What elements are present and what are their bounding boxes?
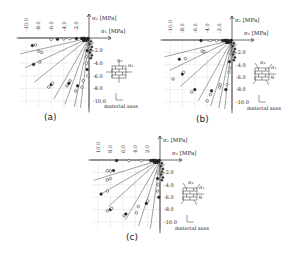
y-tick-label: -6.0	[93, 73, 103, 79]
y-tick-label: -4.0	[164, 182, 174, 188]
x-tick-label: 6.0	[120, 145, 126, 153]
sigma2-icon-label: σ₂	[260, 59, 265, 65]
x-tick-label: 2.0	[144, 145, 150, 153]
x-tick-label: -4.0	[204, 23, 210, 33]
sigma2-icon-label: σ₂	[188, 179, 193, 185]
y-axis-label: σ₂ [MPa]	[92, 15, 116, 21]
panel-b: σ₂ [MPa]σ₁ [MPa]-10.0-8.0-6.0-4.0-2.0-2.…	[161, 16, 282, 124]
y-tick-label: -2.0	[93, 47, 103, 53]
grid	[20, 38, 89, 107]
data-points	[31, 37, 93, 92]
grid	[164, 40, 232, 108]
y-tick-label: -8.0	[236, 86, 246, 92]
x-tick-label: 8.0	[107, 145, 113, 153]
figure-canvas: σ₂ [MPa]σ₁ [MPa]-10.0-8.0-6.0-4.0-2.0-2.…	[0, 0, 307, 259]
y-tick-label: -8.0	[164, 206, 174, 212]
material-axes-icon	[187, 215, 194, 222]
y-tick-label: -10.0	[164, 219, 177, 225]
y-tick-label: -2.0	[236, 49, 246, 55]
theta-label: θ	[199, 194, 202, 200]
x-tick-label: -6.0	[192, 23, 198, 33]
x-tick-label: -2.0	[73, 21, 79, 31]
x-tick-label: -8.0	[35, 21, 41, 31]
panel-a: σ₂ [MPa]σ₁ [MPa]-10.0-8.0-6.0-4.0-2.0-2.…	[17, 14, 139, 122]
y-axis-label: σ₂ [MPa]	[235, 17, 259, 23]
panel-label: (c)	[126, 232, 138, 242]
y-tick-label: -8.0	[93, 85, 103, 91]
x-axis-label: σ₁ [MPa]	[172, 150, 196, 156]
sigma1-icon-label: σ₁	[271, 64, 276, 70]
sigma1-icon-label: σ₁	[128, 62, 133, 68]
material-axes-label: material axes	[104, 103, 139, 109]
panel-c: σ₂ [MPa]σ₁ [MPa]10.08.06.04.02.0-2.0-4.0…	[89, 136, 210, 242]
panel-label: (b)	[196, 114, 209, 124]
load-paths	[18, 38, 89, 109]
x-tick-label: -4.0	[61, 21, 67, 31]
material-axes-icon	[116, 93, 123, 100]
x-tick-label: 10.0	[95, 142, 101, 153]
sigma1-icon-label: σ₁	[199, 184, 204, 190]
x-tick-label: 4.0	[132, 145, 138, 153]
x-axis-label: σ₁ [MPa]	[101, 28, 125, 34]
y-tick-label: -6.0	[236, 74, 246, 80]
material-axes-icon	[259, 95, 266, 102]
sigma2-icon-label: σ₂	[117, 57, 122, 63]
x-tick-label: -6.0	[48, 21, 54, 31]
y-tick-label: -10.0	[236, 99, 249, 105]
x-axis-label: σ₁ [MPa]	[244, 30, 268, 36]
y-tick-label: -2.0	[164, 169, 174, 175]
material-axes-label: material axes	[247, 105, 282, 111]
y-tick-label: -4.0	[93, 60, 103, 66]
theta-label: θ	[271, 74, 274, 80]
x-tick-label: -2.0	[216, 23, 222, 33]
y-tick-label: -4.0	[236, 62, 246, 68]
y-axis-label: σ₂ [MPa]	[163, 137, 187, 143]
panel-label: (a)	[44, 112, 57, 122]
material-axes-label: material axes	[175, 225, 210, 231]
y-tick-label: -6.0	[164, 194, 174, 200]
x-tick-label: -8.0	[179, 23, 185, 33]
load-paths	[163, 40, 232, 109]
x-tick-label: -10.0	[167, 20, 173, 33]
x-tick-label: -10.0	[23, 18, 29, 31]
